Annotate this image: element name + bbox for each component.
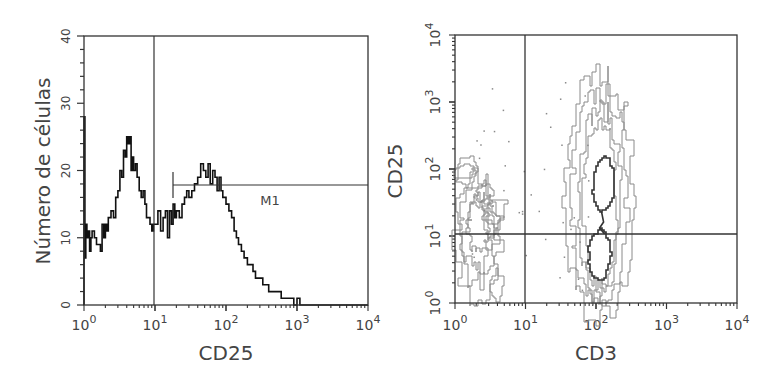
- x-tick-label: 104: [356, 313, 381, 333]
- x-tick-label: 102: [214, 313, 239, 333]
- x-tick-label: 103: [654, 313, 679, 333]
- event-dot: [483, 130, 485, 132]
- x-tick-label: 101: [143, 313, 168, 333]
- x-tick-label: 103: [285, 313, 310, 333]
- event-dot: [476, 199, 478, 201]
- event-dot: [579, 241, 581, 243]
- event-dot: [472, 253, 474, 255]
- event-dot: [561, 144, 563, 146]
- x-axis-label: CD3: [575, 341, 617, 365]
- event-dot: [545, 239, 547, 241]
- event-dot: [539, 211, 541, 213]
- event-dot: [584, 95, 586, 97]
- event-dot: [519, 212, 521, 214]
- y-axis-label: Número de células: [31, 78, 55, 265]
- event-dot: [565, 82, 567, 84]
- event-dot: [559, 277, 561, 279]
- event-dot: [578, 278, 580, 280]
- x-tick-label: 100: [72, 313, 97, 333]
- event-dot: [582, 290, 584, 292]
- y-tick-label: 0: [59, 301, 73, 309]
- y-tick-label: 20: [59, 163, 73, 178]
- contour-line: [454, 164, 476, 178]
- event-dot: [505, 165, 507, 167]
- figure: Número de células 010203040 100101102103…: [0, 0, 770, 371]
- x-tick-label: 101: [513, 313, 538, 333]
- event-dot: [476, 140, 478, 142]
- event-dot: [494, 131, 496, 133]
- x-tick-label: 100: [443, 313, 468, 333]
- y-tick-label: 104: [423, 23, 443, 48]
- contour-line: [490, 268, 504, 302]
- contour-plot: [452, 64, 636, 326]
- y-tick-label: 102: [423, 157, 443, 182]
- event-dot: [492, 88, 494, 90]
- contour-line: [588, 228, 612, 280]
- y-tick-label: 30: [59, 96, 73, 111]
- event-dot: [574, 217, 576, 219]
- x-axis-label: CD25: [199, 341, 254, 365]
- event-dot: [588, 180, 590, 182]
- histogram-line: [84, 117, 368, 305]
- event-dot: [560, 98, 562, 100]
- event-dot: [530, 194, 532, 196]
- histogram-panel: Número de células 010203040 100101102103…: [31, 28, 380, 365]
- contour-line: [578, 100, 622, 304]
- event-dot: [522, 213, 524, 215]
- event-dot: [522, 211, 524, 213]
- event-dot: [544, 169, 546, 171]
- event-dot: [473, 257, 475, 259]
- event-dot: [550, 127, 552, 129]
- event-dot: [484, 210, 486, 212]
- y-axis-label: CD25: [383, 144, 407, 199]
- y-tick-label: 40: [59, 28, 73, 43]
- y-tick-label: 10: [59, 230, 73, 245]
- x-tick-label: 104: [725, 313, 750, 333]
- y-tick-label: 100: [423, 291, 443, 316]
- y-axis-ticks: 010203040: [59, 28, 84, 308]
- contour-line: [592, 156, 614, 212]
- event-dot: [562, 222, 564, 224]
- m1-marker-label: M1: [260, 193, 280, 208]
- contour-line: [562, 64, 636, 326]
- x-axis-ticks: 100101102103104: [443, 303, 750, 333]
- event-dot: [503, 190, 505, 192]
- contour-line: [456, 156, 478, 188]
- event-dot: [564, 256, 566, 258]
- y-tick-label: 101: [423, 224, 443, 249]
- x-axis-ticks: 100101102103104: [72, 305, 381, 333]
- contour-panel: CD25 100101102103104 100101102103104 CD3: [383, 23, 749, 365]
- event-dot: [588, 216, 590, 218]
- event-dot: [503, 110, 505, 112]
- event-dot: [570, 229, 572, 231]
- event-dot: [587, 145, 589, 147]
- y-tick-label: 103: [423, 90, 443, 115]
- event-dot: [546, 113, 548, 115]
- event-dot: [508, 141, 510, 143]
- event-dot: [525, 255, 527, 257]
- event-dot: [480, 144, 482, 146]
- event-dot: [479, 158, 481, 160]
- plot-frame: [84, 36, 368, 305]
- y-axis-ticks: 100101102103104: [423, 23, 455, 316]
- contour-line: [570, 84, 630, 306]
